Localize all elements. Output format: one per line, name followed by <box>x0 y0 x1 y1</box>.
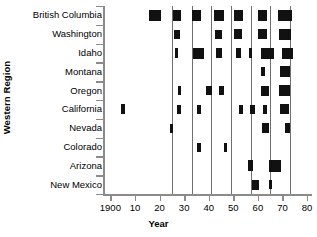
data-mark <box>282 48 293 59</box>
data-mark <box>280 66 290 77</box>
x-axis-tick-label: 30 <box>179 202 190 213</box>
data-mark <box>258 29 267 39</box>
x-axis-title-text: Year <box>148 218 168 229</box>
x-axis-tick-label: 50 <box>228 202 239 213</box>
x-axis-tick <box>135 195 136 201</box>
x-axis-tick-label: 1900 <box>100 202 121 213</box>
x-axis-tick <box>282 195 283 201</box>
x-axis-tick <box>184 195 185 201</box>
x-axis-tick <box>110 195 111 201</box>
data-mark <box>280 104 289 114</box>
y-axis-tick-label: Nevada <box>69 123 102 133</box>
y-axis-tick <box>96 175 103 176</box>
y-axis-title: Western Region <box>0 0 14 195</box>
data-mark <box>224 143 227 152</box>
y-axis-tick <box>96 194 103 195</box>
data-mark <box>193 48 204 59</box>
y-axis-tick <box>96 62 103 63</box>
x-axis-tick <box>233 195 234 201</box>
y-axis-tick <box>96 138 103 139</box>
x-axis-tick-label: 20 <box>154 202 165 213</box>
data-mark <box>239 105 243 114</box>
data-mark <box>236 48 241 58</box>
y-axis-tick <box>96 25 103 26</box>
data-mark <box>261 67 265 76</box>
data-mark <box>262 123 269 133</box>
y-axis-tick <box>96 119 103 120</box>
data-mark <box>269 160 281 172</box>
data-mark <box>214 10 224 21</box>
x-axis-tick-label: 60 <box>253 202 264 213</box>
data-mark <box>177 105 181 114</box>
data-mark <box>170 124 173 133</box>
data-mark <box>248 160 253 171</box>
data-mark <box>252 180 259 190</box>
data-mark <box>219 86 224 95</box>
y-axis-tick-label: British Columbia <box>33 11 102 21</box>
data-mark <box>121 104 125 114</box>
y-axis-tick-label: Oregon <box>70 86 102 96</box>
y-axis-tick-label: Washington <box>52 29 102 39</box>
y-axis-tick-label: Montana <box>65 67 102 77</box>
data-mark <box>279 29 291 40</box>
data-mark <box>234 10 243 21</box>
plot-area <box>103 6 312 193</box>
y-axis-tick-label: New Mexico <box>50 180 102 190</box>
x-axis-tick <box>160 195 161 201</box>
y-axis-tick-label: Arizona <box>70 161 102 171</box>
y-axis-tick <box>96 6 103 7</box>
x-axis-tick-label: 10 <box>130 202 141 213</box>
data-mark <box>215 30 222 39</box>
x-axis-tick-label: 80 <box>302 202 313 213</box>
data-mark <box>261 48 274 59</box>
y-axis-title-text: Western Region <box>2 61 13 135</box>
data-mark <box>258 10 267 21</box>
data-mark <box>250 105 255 114</box>
x-axis-tick <box>307 195 308 201</box>
data-mark <box>197 143 201 152</box>
data-mark <box>178 86 181 95</box>
data-mark <box>149 10 161 21</box>
x-axis-tick <box>209 195 210 201</box>
data-mark <box>269 180 272 189</box>
x-axis-tick-label: 70 <box>277 202 288 213</box>
data-mark <box>197 105 201 114</box>
data-mark <box>234 29 242 39</box>
data-mark <box>174 30 180 39</box>
data-mark <box>249 48 252 58</box>
data-mark <box>206 86 212 95</box>
x-axis-title: Year <box>0 218 317 229</box>
y-axis-tick <box>96 100 103 101</box>
data-mark <box>285 123 290 133</box>
y-axis-tick <box>96 81 103 82</box>
data-mark <box>173 10 181 21</box>
y-axis-tick <box>96 156 103 157</box>
data-mark <box>175 48 178 58</box>
x-axis-tick <box>258 195 259 201</box>
x-axis-tick-label: 40 <box>203 202 214 213</box>
scatter-chart: Western Region British ColumbiaWashingto… <box>0 0 317 237</box>
data-mark <box>216 48 222 58</box>
data-mark <box>263 105 267 114</box>
data-mark <box>279 85 290 96</box>
y-axis-tick-label: California <box>62 105 102 115</box>
y-axis-tick-label: Idaho <box>78 48 102 58</box>
data-mark <box>278 10 292 21</box>
data-mark <box>192 10 201 21</box>
y-axis-tick <box>96 44 103 45</box>
data-mark <box>261 86 269 96</box>
y-axis-tick-label: Colorado <box>63 142 102 152</box>
